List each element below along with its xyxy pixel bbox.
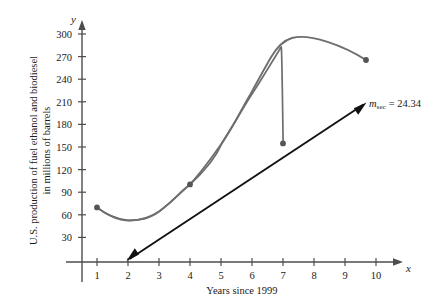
y-axis-title-line2: in millions of barrels <box>40 107 51 195</box>
curve-draft8 <box>97 86 283 221</box>
x-tick-label-10: 10 <box>371 270 382 281</box>
curve-spare3 <box>97 44 366 221</box>
curve-draft5 <box>97 59 276 220</box>
secant-arrowhead-end <box>354 103 367 115</box>
curve-draft <box>97 60 366 221</box>
x-axis-letter: x <box>406 262 411 274</box>
production-curve-path <box>97 47 283 220</box>
secant-slope-symbol: m <box>369 98 377 109</box>
secant-slope-value: = 24.34 <box>389 98 421 109</box>
x-tick-label-3: 3 <box>156 270 161 281</box>
x-axis-arrowhead <box>393 258 403 265</box>
secant-line <box>130 105 364 260</box>
curve-unused <box>97 40 288 221</box>
curve-helper-3 <box>97 88 283 220</box>
chart-plot-area <box>0 0 445 307</box>
x-tick-label-7: 7 <box>280 270 285 281</box>
x-tick-label-8: 8 <box>311 270 316 281</box>
data-point-x7 <box>280 141 286 147</box>
x-axis <box>66 258 403 266</box>
production-curve <box>97 16 245 220</box>
curve-draft7 <box>97 80 283 220</box>
y-axis-arrowhead <box>78 20 85 30</box>
x-tick-label-1: 1 <box>94 270 99 281</box>
figure-container: 300 270 240 210 180 150 120 90 60 30 1 2… <box>0 0 445 307</box>
curve-spare <box>97 54 366 220</box>
data-point-x10 <box>363 57 369 63</box>
x-axis-title: Years since 1999 <box>152 285 332 296</box>
x-tick-label-6: 6 <box>249 270 254 281</box>
curve-spare4 <box>97 58 366 220</box>
x-tick-label-5: 5 <box>218 270 223 281</box>
data-point-markers <box>94 57 369 210</box>
curve-spare2 <box>97 60 366 221</box>
secant-slope-subscript: sec <box>377 103 387 111</box>
secant-slope-annotation: msec = 24.34 <box>369 98 421 111</box>
x-tick-label-9: 9 <box>342 270 347 281</box>
curve-helper <box>97 81 283 220</box>
secant-arrowhead-start <box>127 248 140 261</box>
data-point-x4 <box>187 182 193 188</box>
data-point-x1 <box>94 205 100 211</box>
curve-helper-2 <box>97 79 283 221</box>
curve-draft9 <box>97 81 283 221</box>
y-axis-title: U.S. production of fuel ethanol and biod… <box>28 33 53 269</box>
x-tick-label-2: 2 <box>125 270 130 281</box>
secant-line-group <box>127 103 367 262</box>
curve-draft4 <box>97 82 283 221</box>
y-axis <box>78 20 86 282</box>
fuel-production-curve <box>97 59 366 221</box>
curve-draft2 <box>97 35 283 221</box>
y-axis-title-line1: U.S. production of fuel ethanol and biod… <box>28 56 39 245</box>
curve-draft6 <box>97 84 283 221</box>
y-axis-letter: y <box>71 13 76 25</box>
x-tick-label-4: 4 <box>187 270 192 281</box>
